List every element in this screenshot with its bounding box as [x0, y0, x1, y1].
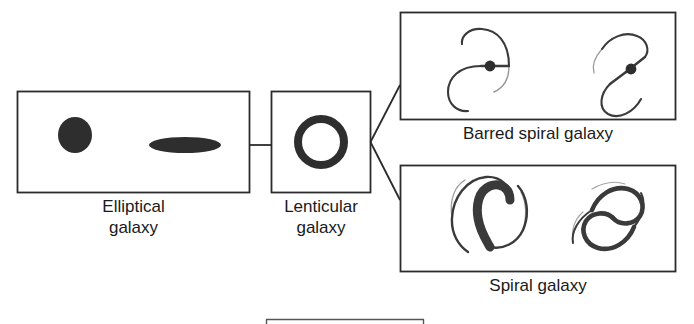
spiral-galaxy-caption: Spiral galaxy: [400, 275, 676, 296]
lenticular-to-barred-spiral-connector: [371, 85, 401, 142]
lenticular-galaxy-caption: Lenticular galaxy: [261, 196, 381, 238]
round-elliptical-galaxy-icon: [58, 117, 92, 153]
spiral-panel-box: [401, 166, 676, 272]
galaxy-classification-diagram: Elliptical galaxy Lenticular galaxy Barr…: [0, 0, 694, 324]
lenticular-panel-box: [272, 92, 371, 193]
lenticular-to-spiral-connector: [371, 142, 401, 200]
cropped-box-top-edge: [266, 320, 424, 324]
elliptical-galaxy-caption: Elliptical galaxy: [17, 196, 250, 238]
elongated-elliptical-galaxy-icon: [149, 137, 221, 153]
barred-spiral-galaxy-caption: Barred spiral galaxy: [400, 123, 676, 144]
